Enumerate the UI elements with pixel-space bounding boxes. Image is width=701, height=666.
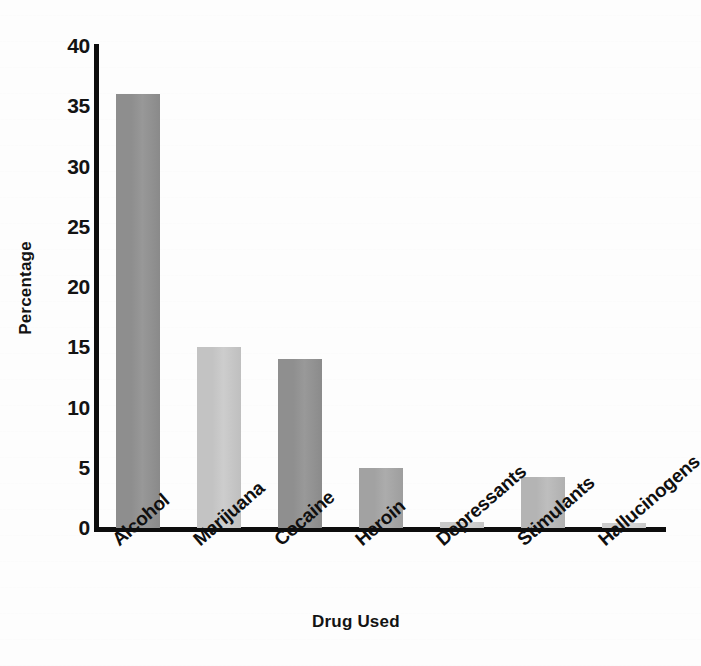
y-axis-tick-label: 10	[44, 397, 90, 418]
y-axis-tick-labels: 0510152025303540	[30, 0, 90, 666]
y-axis-tick-label: 0	[44, 517, 90, 538]
x-axis-category-label: Hallucinogens	[594, 451, 701, 551]
x-axis-title: Drug Used	[312, 612, 400, 632]
y-axis-tick-label: 5	[44, 457, 90, 478]
bar	[116, 94, 160, 528]
y-axis-title: Percentage	[16, 198, 36, 378]
y-axis-tick-label: 25	[44, 216, 90, 237]
y-axis-line	[94, 44, 99, 532]
y-axis-tick-label: 15	[44, 336, 90, 357]
y-axis-tick-label: 35	[44, 95, 90, 116]
bar-chart: 0510152025303540 Percentage Drug Used Al…	[0, 0, 701, 666]
y-axis-tick-label: 20	[44, 276, 90, 297]
y-axis-tick-label: 40	[44, 35, 90, 56]
y-axis-tick-label: 30	[44, 156, 90, 177]
